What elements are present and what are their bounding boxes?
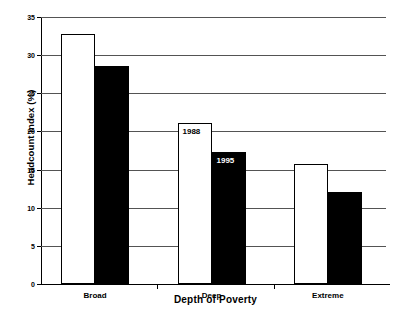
y-axis-tick-label: 0 <box>31 281 35 288</box>
x-axis-title: Depth of Poverty <box>41 294 390 305</box>
y-axis-tick-label: 10 <box>27 204 35 211</box>
y-axis-tick-label: 20 <box>27 128 35 135</box>
y-axis-tick <box>37 246 41 247</box>
y-axis-tick-label: 25 <box>27 90 35 97</box>
y-axis-line <box>41 17 42 285</box>
gridline <box>41 17 386 18</box>
y-axis-tick <box>37 17 41 18</box>
y-axis-tick <box>37 284 41 285</box>
bar-chart-figure: Headcount Index (%) 05101520253035 19881… <box>0 0 399 323</box>
x-axis-line <box>41 284 390 285</box>
y-axis-tick <box>37 93 41 94</box>
y-axis-tick <box>37 208 41 209</box>
bar-deep-1988 <box>178 123 212 284</box>
y-axis-tick <box>37 131 41 132</box>
y-axis-tick-label: 15 <box>27 166 35 173</box>
x-axis-separator-tick <box>274 284 275 289</box>
y-axis-tick <box>37 55 41 56</box>
y-axis-title: Headcount Index (%) <box>25 53 36 223</box>
y-axis-tick-label: 5 <box>31 242 35 249</box>
plot-area: 05101520253035 19881995 BroadDeepExtreme <box>41 17 390 284</box>
y-axis-tick <box>37 170 41 171</box>
series-label-1988: 1988 <box>183 127 201 136</box>
bar-extreme-1988 <box>294 164 328 284</box>
y-axis-tick-label: 35 <box>27 14 35 21</box>
bar-deep-1995 <box>212 152 246 284</box>
x-axis-separator-tick <box>157 284 158 289</box>
bar-broad-1995 <box>95 66 129 284</box>
series-label-1995: 1995 <box>217 156 235 165</box>
bar-broad-1988 <box>61 34 95 284</box>
y-axis-tick-label: 30 <box>27 52 35 59</box>
bar-extreme-1995 <box>328 192 362 284</box>
